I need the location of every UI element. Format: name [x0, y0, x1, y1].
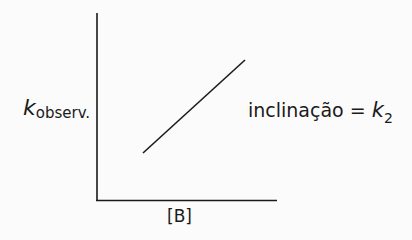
- x-axis-label: [B]: [167, 208, 192, 225]
- slope-text: inclinação =: [248, 99, 372, 121]
- y-label-symbol: k: [23, 95, 36, 120]
- y-axis-label: kobserv.: [23, 97, 90, 119]
- y-label-subscript: observ.: [36, 104, 90, 122]
- slope-subscript: 2: [384, 110, 393, 126]
- data-line: [143, 60, 245, 153]
- slope-symbol: k: [372, 98, 384, 122]
- slope-annotation: inclinação = k2: [248, 100, 393, 121]
